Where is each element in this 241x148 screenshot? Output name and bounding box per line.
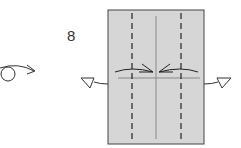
origami-diagram <box>0 0 241 148</box>
unfold-right-arrow <box>204 78 231 88</box>
unfold-left-arrow <box>81 78 108 88</box>
turn-over-icon <box>0 65 35 81</box>
